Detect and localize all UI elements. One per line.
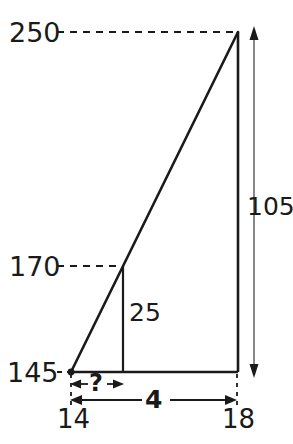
dimension-arrow-105-head-bottom	[250, 364, 259, 378]
dimension-arrow-105-head-top	[250, 26, 259, 40]
dimension-arrow-unknown-head-right	[113, 380, 124, 389]
label-top-value: 250	[9, 19, 61, 46]
label-inner-height: 25	[129, 300, 161, 325]
label-base-value: 145	[7, 359, 59, 386]
label-mid-value: 170	[9, 253, 61, 280]
label-outer-height: 105	[247, 194, 293, 219]
label-base-span: 4	[145, 387, 162, 412]
dimension-arrow-unknown-head-left	[70, 380, 81, 389]
label-unknown-span: ?	[89, 371, 103, 395]
label-x-end: 18	[222, 406, 255, 432]
label-x-start: 14	[57, 406, 90, 432]
